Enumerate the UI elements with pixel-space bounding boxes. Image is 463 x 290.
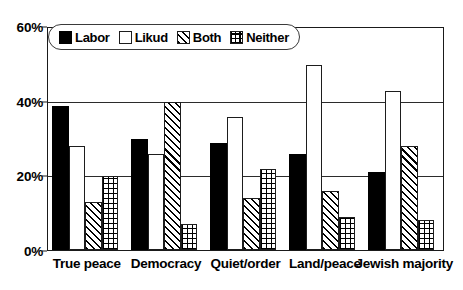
bar-both-quiet-order	[243, 198, 259, 250]
bar-group	[285, 28, 364, 250]
bar-both-true-peace	[85, 202, 101, 250]
bar-both-democracy	[164, 102, 180, 250]
legend-swatch-both-icon	[177, 31, 190, 44]
bar-group	[206, 28, 285, 250]
x-tick-label-jewish-majority: Jewish majority	[356, 256, 454, 271]
legend-item-both: Both	[177, 30, 221, 45]
bar-both-land-peace	[322, 191, 338, 250]
plot-area	[47, 27, 444, 251]
bar-chart: 0% 20% 40% 60% True peaceDemocracyQuiet/…	[0, 0, 463, 290]
x-tick-label-true-peace: True peace	[53, 256, 121, 271]
x-tick-label-quiet-order: Quiet/order	[210, 256, 280, 271]
legend-swatch-neither-icon	[230, 31, 243, 44]
bar-neither-jewish-majority	[418, 220, 434, 250]
bar-labor-land-peace	[289, 154, 305, 250]
legend-label-labor: Labor	[75, 30, 110, 45]
bars-layer	[48, 28, 443, 250]
chart-legend: LaborLikudBothNeither	[48, 24, 300, 50]
y-tick-label-20: 20%	[1, 169, 43, 184]
bar-group	[127, 28, 206, 250]
bar-neither-democracy	[181, 224, 197, 250]
x-tick-label-land-peace: Land/peace	[289, 256, 361, 271]
legend-item-likud: Likud	[119, 30, 168, 45]
legend-label-neither: Neither	[246, 30, 289, 45]
legend-label-likud: Likud	[135, 30, 168, 45]
y-tick-label-40: 40%	[1, 94, 43, 109]
bar-labor-democracy	[131, 139, 147, 250]
bar-likud-jewish-majority	[385, 91, 401, 250]
bar-labor-jewish-majority	[368, 172, 384, 250]
bar-neither-land-peace	[339, 217, 355, 250]
bar-likud-quiet-order	[227, 117, 243, 250]
y-tick-label-0: 0%	[1, 244, 43, 259]
legend-label-both: Both	[193, 30, 221, 45]
x-axis-category-labels: True peaceDemocracyQuiet/orderLand/peace…	[47, 256, 444, 282]
legend-item-neither: Neither	[230, 30, 289, 45]
bar-likud-land-peace	[306, 65, 322, 250]
bar-labor-true-peace	[52, 106, 68, 250]
bar-neither-quiet-order	[260, 169, 276, 250]
bar-likud-true-peace	[69, 146, 85, 250]
bar-neither-true-peace	[102, 176, 118, 250]
x-tick-label-democracy: Democracy	[131, 256, 202, 271]
bar-both-jewish-majority	[401, 146, 417, 250]
legend-item-labor: Labor	[59, 30, 110, 45]
bar-likud-democracy	[148, 154, 164, 250]
legend-swatch-likud-icon	[119, 31, 132, 44]
y-tick-label-60: 60%	[1, 20, 43, 35]
bar-labor-quiet-order	[210, 143, 226, 250]
bar-group	[364, 28, 443, 250]
y-axis: 0% 20% 40% 60%	[0, 27, 43, 251]
bar-group	[48, 28, 127, 250]
legend-swatch-labor-icon	[59, 31, 72, 44]
